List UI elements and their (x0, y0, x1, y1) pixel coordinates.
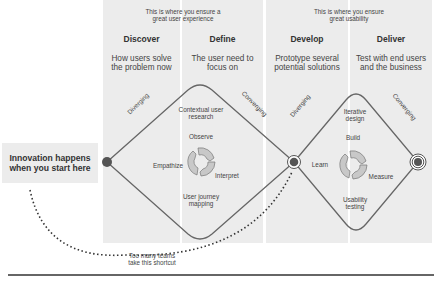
cycle-label-interpret: Interpret (207, 172, 247, 179)
activity-usability-testing: Usability testing (325, 196, 385, 211)
activity-line: testing (325, 203, 385, 210)
shortcut-label: Too many teams take this shortcut (122, 252, 182, 266)
activity-line: Usability (325, 196, 385, 203)
activity-line: design (325, 115, 385, 122)
activity-line: Contextual user (165, 106, 237, 113)
start-line: when you start here (9, 163, 90, 173)
activity-contextual-research: Contextual user research (165, 106, 237, 121)
start-callout: Innovation happens when you start here (2, 143, 98, 183)
activity-line: User journey (165, 193, 237, 200)
cycle-label-learn: Learn (302, 161, 338, 168)
cycle-label-build: Build (335, 134, 371, 141)
activity-line: mapping (165, 200, 237, 207)
shortcut-line: take this shortcut (122, 259, 182, 266)
shortcut-line: Too many teams (122, 252, 182, 259)
start-line: Innovation happens (9, 153, 90, 163)
activity-line: research (165, 113, 237, 120)
activity-user-journey-mapping: User journey mapping (165, 193, 237, 208)
activity-line: Iterative (325, 108, 385, 115)
activity-iterative-design: Iterative design (325, 108, 385, 123)
start-node-icon (102, 157, 112, 167)
cycle-label-empathize: Empathize (148, 162, 188, 169)
shortcut-dotted-path (30, 172, 292, 255)
cycle-label-observe: Observe (181, 133, 221, 140)
cycle-label-measure: Measure (361, 173, 401, 180)
bottom-divider (8, 274, 434, 276)
